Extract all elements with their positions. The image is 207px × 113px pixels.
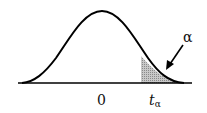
zero-label: 0 — [97, 92, 106, 108]
t-alpha-subscript: α — [155, 99, 161, 109]
arrow-line — [170, 45, 183, 64]
arrow-head-icon — [166, 60, 174, 70]
shaded-tail-area — [141, 56, 184, 83]
t-alpha-label: tα — [149, 92, 161, 109]
alpha-label: α — [183, 29, 193, 45]
density-curve — [22, 11, 184, 83]
t-distribution-diagram: α 0 tα — [0, 0, 207, 113]
